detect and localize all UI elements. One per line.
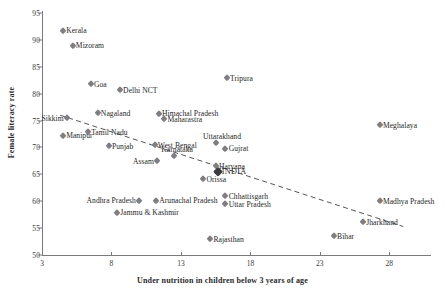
x-axis-title: Under nutrition in children below 3 year…	[0, 276, 445, 285]
data-point-uttar-pradesh: Uttar Pradesh	[223, 202, 228, 207]
data-point-label: Jharkhand	[366, 218, 398, 227]
data-point-label: Goa	[94, 79, 107, 88]
data-point-label: Maharastra	[168, 115, 203, 124]
data-point-kerala: Kerala	[60, 28, 65, 33]
y-tick-label: 50	[0, 251, 40, 260]
data-point-label: Jammu & Kashmir	[120, 208, 179, 217]
x-tick-label: 23	[316, 259, 324, 268]
data-point-label: Uttar Pradesh	[229, 200, 271, 209]
diamond-marker-icon	[63, 115, 71, 123]
data-point-label: Uttarakhand	[203, 132, 241, 141]
data-point-label: Nagaland	[101, 109, 131, 118]
x-tick-label: 18	[247, 259, 255, 268]
scatter-chart: 50556065707580859095 3813182328 Female l…	[0, 0, 445, 298]
x-axis-line	[42, 255, 431, 256]
data-point-label: Karnataka	[161, 145, 193, 154]
data-point-tripura: Tripura	[224, 75, 229, 80]
data-point-goa: Goa	[88, 81, 93, 86]
data-point-label: Sikkim	[41, 114, 63, 123]
data-point-label: Tamil Nadu	[91, 127, 127, 136]
data-point-assam: Assam	[155, 159, 160, 164]
data-point-label: Andhra Pradesh	[87, 196, 136, 205]
data-point-label: Assam	[133, 157, 154, 166]
diamond-marker-icon	[153, 158, 161, 166]
plot-area: KeralaMizoramGoaDelhi NCTTripuraSikkimNa…	[42, 13, 431, 255]
data-point-mizoram: Mizoram	[70, 43, 75, 48]
data-point-label: Manipur	[66, 131, 93, 140]
data-point-chhattisgarh: Chhattisgarh	[223, 194, 228, 199]
data-point-label: Tripura	[230, 74, 253, 83]
data-point-label: Gujrat	[229, 144, 249, 153]
data-point-madhya-pradesh: Madhya Pradesh	[377, 199, 382, 204]
data-point-andhra-pradesh: Andhra Pradesh	[137, 198, 142, 203]
data-point-punjab: Punjab	[106, 143, 111, 148]
data-point-label: Orissa	[206, 175, 226, 184]
data-point-label: Punjab	[112, 141, 133, 150]
data-point-label: Madhya Pradesh	[383, 197, 435, 206]
data-point-label: Bihar	[337, 232, 354, 241]
data-point-rajasthan: Rajasthan	[207, 237, 212, 242]
data-point-himachal-pradesh: Himachal Pradesh	[156, 111, 161, 116]
data-point-delhi-nct: Delhi NCT	[117, 87, 122, 92]
data-point-nagaland: Nagaland	[95, 110, 100, 115]
data-point-west-bengal: West Bengal	[152, 143, 157, 148]
x-tick-label: 3	[40, 259, 44, 268]
data-point-sikkim: Sikkim	[64, 116, 69, 121]
data-point-arunachal-pradesh: Arunachal Pradesh	[153, 198, 158, 203]
x-tick-label: 28	[386, 259, 394, 268]
data-point-label: Kerala	[66, 26, 87, 35]
data-point-label: Arunachal Pradesh	[159, 196, 217, 205]
data-point-label: Delhi NCT	[123, 85, 157, 94]
data-point-jharkhand: Jharkhand	[360, 219, 365, 224]
data-point-label: Rajasthan	[213, 235, 243, 244]
data-point-label: Meghalaya	[383, 121, 417, 130]
data-point-orissa: Orissa	[200, 176, 205, 181]
y-axis-title: Female literacy rate	[7, 8, 16, 238]
data-point-label: Mizoram	[76, 41, 104, 50]
data-point-meghalaya: Meghalaya	[377, 123, 382, 128]
data-point-maharastra: Maharastra	[162, 117, 167, 122]
data-point-manipur: Manipur	[60, 133, 65, 138]
data-point-karnataka: Karnataka	[171, 153, 176, 158]
data-point-uttarakhand: Uttarakhand	[213, 140, 218, 145]
diamond-marker-icon	[135, 197, 143, 205]
x-tick-label: 13	[177, 259, 185, 268]
data-point-jammu-kashmir: Jammu & Kashmir	[114, 210, 119, 215]
data-point-bihar: Bihar	[331, 233, 336, 238]
data-point-gujrat: Gujrat	[223, 146, 228, 151]
x-tick-label: 8	[110, 259, 114, 268]
